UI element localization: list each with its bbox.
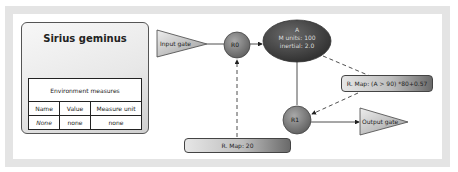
input-gate-label: Input gate — [160, 40, 191, 47]
ellipse-to-rmap-dashed-line — [323, 56, 370, 76]
rmap-upper-box[interactable]: R. Map: (A > 90) *80+0.57 — [341, 75, 433, 92]
r0-label: R0 — [231, 41, 239, 48]
output-gate-label: Output gate — [362, 118, 398, 125]
rmap-lower-box[interactable]: R. Map: 20 — [184, 138, 291, 153]
r1-label: R1 — [291, 116, 299, 123]
ellipse-line-1: A — [263, 26, 331, 33]
ellipse-line-3: inertial: 2.0 — [263, 42, 331, 49]
rmap-to-r1-dashed-arrow — [312, 93, 358, 114]
ellipse-line-2: M units: 100 — [263, 34, 331, 41]
